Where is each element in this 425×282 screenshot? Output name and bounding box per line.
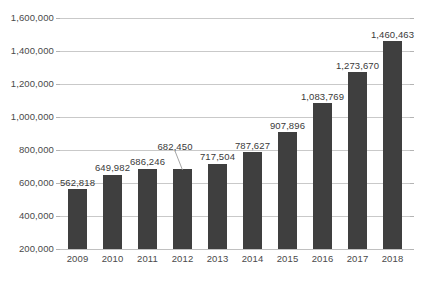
plot-area: 562,818 649,982 686,246 682,450 717,504 … bbox=[60, 18, 410, 249]
gridline-200000-baseline bbox=[60, 249, 410, 250]
bar-value-label-2010: 649,982 bbox=[95, 163, 130, 173]
leader-line-2012 bbox=[173, 151, 203, 170]
x-axis-tick-label-2011: 2011 bbox=[137, 254, 158, 264]
y-axis-tick-label: 1,200,000 bbox=[11, 79, 54, 89]
x-axis-tick-label-2017: 2017 bbox=[347, 254, 369, 264]
bar-value-label-2015: 907,896 bbox=[270, 121, 305, 131]
x-axis-tick-label-2013: 2013 bbox=[207, 254, 229, 264]
y-axis-tick-mark bbox=[56, 150, 60, 151]
bar-value-label-2014: 787,627 bbox=[235, 141, 270, 151]
x-axis-tick-label-2010: 2010 bbox=[102, 254, 124, 264]
y-axis-tick-label: 400,000 bbox=[19, 211, 54, 221]
bar-2015 bbox=[278, 132, 297, 249]
bar-2012 bbox=[173, 169, 192, 249]
y-axis-right-tick-mark bbox=[410, 150, 414, 151]
bar-2017 bbox=[348, 72, 367, 249]
x-axis-tick-label-2015: 2015 bbox=[277, 254, 299, 264]
y-axis-tick-label: 1,000,000 bbox=[11, 112, 54, 122]
bar-2009 bbox=[68, 189, 87, 249]
bar-value-label-2018: 1,460,463 bbox=[371, 30, 414, 40]
bar-value-label-2017: 1,273,670 bbox=[336, 61, 379, 71]
y-axis-tick-label: 1,400,000 bbox=[11, 46, 54, 56]
gridline-1400000 bbox=[60, 51, 410, 52]
bar-chart: 1,600,000 1,400,000 1,200,000 1,000,000 … bbox=[0, 0, 425, 282]
y-axis-tick-mark bbox=[56, 18, 60, 19]
x-axis-tick-label-2009: 2009 bbox=[67, 254, 89, 264]
y-axis-right-tick-mark bbox=[410, 249, 414, 250]
bar-value-label-2016: 1,083,769 bbox=[301, 92, 344, 102]
y-axis-right-tick-mark bbox=[410, 216, 414, 217]
y-axis-tick-label: 200,000 bbox=[19, 244, 54, 254]
bar-2013 bbox=[208, 164, 227, 249]
y-axis-tick-mark bbox=[56, 84, 60, 85]
y-axis-right-tick-mark bbox=[410, 117, 414, 118]
x-axis-tick-label-2014: 2014 bbox=[242, 254, 264, 264]
bar-value-label-2013: 717,504 bbox=[200, 152, 235, 162]
y-axis-tick-label: 1,600,000 bbox=[11, 13, 54, 23]
x-axis-tick-label-2016: 2016 bbox=[312, 254, 334, 264]
x-axis-tick-label-2012: 2012 bbox=[172, 254, 194, 264]
gridline-1600000 bbox=[60, 18, 410, 19]
y-axis-right-tick-mark bbox=[410, 183, 414, 184]
y-axis-right-tick-mark bbox=[410, 84, 414, 85]
bar-value-label-2012: 682,450 bbox=[157, 142, 192, 152]
y-axis-tick-label: 600,000 bbox=[19, 178, 54, 188]
y-axis-tick-mark bbox=[56, 117, 60, 118]
bar-2010 bbox=[103, 175, 122, 249]
y-axis-right-tick-mark bbox=[410, 51, 414, 52]
y-axis-tick-mark bbox=[56, 249, 60, 250]
bar-2011 bbox=[138, 169, 157, 249]
x-axis-tick-label-2018: 2018 bbox=[382, 254, 404, 264]
y-axis-tick-mark bbox=[56, 51, 60, 52]
bar-2018 bbox=[383, 41, 402, 249]
bar-value-label-2009: 562,818 bbox=[60, 178, 95, 188]
bar-2014 bbox=[243, 152, 262, 249]
bar-2016 bbox=[313, 103, 332, 249]
y-axis-tick-label: 800,000 bbox=[19, 145, 54, 155]
bar-value-label-2011: 686,246 bbox=[130, 157, 165, 167]
y-axis-right-tick-mark bbox=[410, 18, 414, 19]
y-axis-tick-mark bbox=[56, 216, 60, 217]
